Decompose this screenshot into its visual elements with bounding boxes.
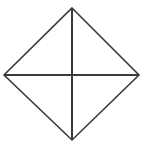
rhombus-diagram bbox=[0, 0, 144, 148]
